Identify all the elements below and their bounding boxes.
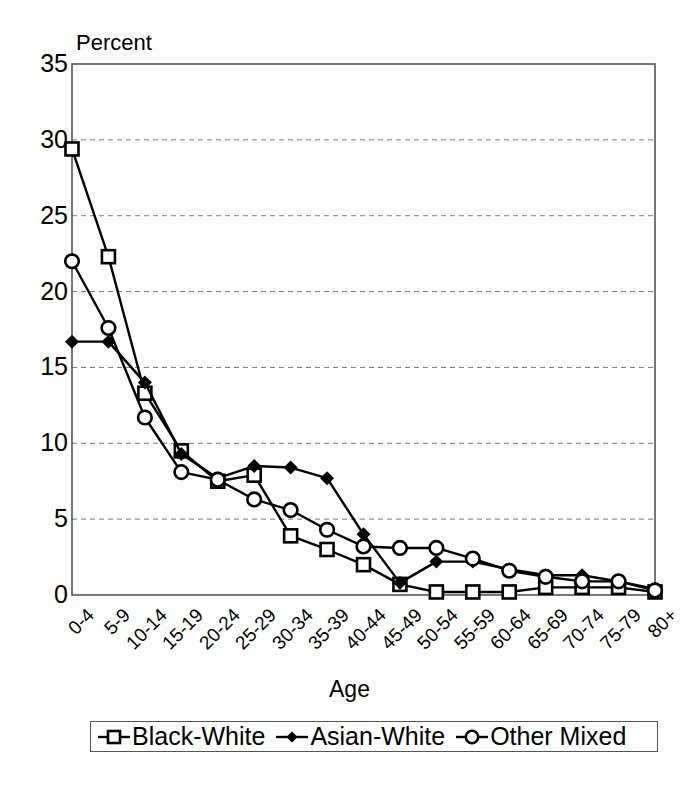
data-marker xyxy=(430,585,443,598)
y-tick-label: 30 xyxy=(24,127,68,152)
y-tick-label: 15 xyxy=(24,354,68,379)
y-tick-label: 25 xyxy=(24,203,68,228)
filled-diamond-icon xyxy=(275,726,309,748)
data-marker xyxy=(175,465,189,479)
data-marker xyxy=(321,472,333,484)
legend-label: Other Mixed xyxy=(489,724,626,749)
data-marker xyxy=(102,250,115,263)
data-series-other-mixed xyxy=(65,254,662,597)
data-marker xyxy=(466,585,479,598)
data-marker xyxy=(138,411,152,425)
chart-figure: Percent 05101520253035 0-45-910-1415-192… xyxy=(0,0,699,795)
legend-label: Black-White xyxy=(131,724,265,749)
data-marker xyxy=(320,523,334,537)
data-marker xyxy=(357,558,370,571)
legend-entry-asian-white: Asian-White xyxy=(275,724,445,749)
y-tick-label: 35 xyxy=(24,51,68,76)
data-marker xyxy=(430,541,444,555)
open-circle-icon xyxy=(455,726,489,748)
chart-legend: Black-WhiteAsian-WhiteOther Mixed xyxy=(90,721,658,752)
y-tick-label: 10 xyxy=(24,430,68,455)
data-marker xyxy=(503,585,516,598)
y-tick-label: 5 xyxy=(24,506,68,531)
y-axis-title: Percent xyxy=(76,30,152,56)
y-tick-label: 0 xyxy=(24,582,68,607)
data-marker xyxy=(284,503,298,517)
x-axis-title: Age xyxy=(0,676,699,703)
data-marker xyxy=(102,321,116,335)
plot-frame xyxy=(72,64,655,595)
legend-entry-black-white: Black-White xyxy=(97,724,265,749)
legend-entry-other-mixed: Other Mixed xyxy=(455,724,626,749)
data-marker xyxy=(321,543,334,556)
data-marker xyxy=(357,540,371,554)
data-marker xyxy=(648,584,662,598)
grid-lines xyxy=(72,140,655,519)
y-tick-label: 20 xyxy=(24,279,68,304)
data-marker xyxy=(539,570,553,584)
data-marker xyxy=(430,556,442,568)
data-marker xyxy=(466,552,480,566)
data-marker xyxy=(247,493,261,507)
data-marker xyxy=(285,462,297,474)
data-marker xyxy=(284,529,297,542)
data-marker xyxy=(575,575,589,589)
data-marker xyxy=(502,564,516,578)
data-marker xyxy=(211,473,225,487)
data-marker xyxy=(393,541,407,555)
open-square-icon xyxy=(97,726,131,748)
data-series-asian-white xyxy=(66,336,661,595)
data-marker xyxy=(612,575,626,589)
legend-label: Asian-White xyxy=(309,724,445,749)
